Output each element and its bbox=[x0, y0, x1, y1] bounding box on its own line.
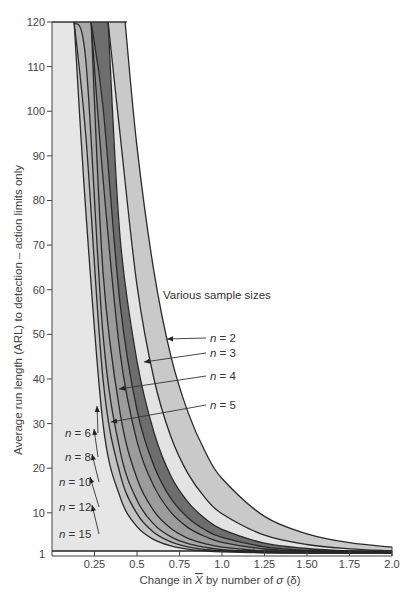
x-axis-label-delta: (δ) bbox=[283, 574, 300, 586]
y-tick-label: 120 bbox=[27, 16, 45, 28]
x-tick-label: 1.50 bbox=[296, 558, 317, 570]
x-axis-label-prefix: Change in bbox=[139, 574, 195, 586]
x-tick-label: 1.25 bbox=[254, 558, 275, 570]
x-tick-label: 0.75 bbox=[169, 558, 190, 570]
series-label: n = 3 bbox=[210, 347, 236, 359]
x-axis-label: Change in X by number of σ (δ) bbox=[139, 574, 300, 586]
x-tick-label: 1.0 bbox=[214, 558, 229, 570]
y-tick-label: 30 bbox=[33, 418, 45, 430]
x-tick-label: 1.75 bbox=[339, 558, 360, 570]
series-label: n = 4 bbox=[210, 370, 237, 382]
y-tick-label: 60 bbox=[33, 284, 45, 296]
x-tick-label: 0.25 bbox=[84, 558, 105, 570]
y-tick-label: 20 bbox=[33, 462, 45, 474]
y-tick-label: 110 bbox=[27, 61, 45, 73]
series-label: n = 10 bbox=[59, 476, 91, 488]
arl-chart: 1102030405060708090100110120 0.250.50.75… bbox=[0, 0, 413, 601]
series-label: n = 5 bbox=[210, 399, 236, 411]
annotation-various-sample-sizes: Various sample sizes bbox=[163, 289, 271, 301]
series-label: n = 15 bbox=[59, 528, 91, 540]
x-tick-label: 0.5 bbox=[129, 558, 144, 570]
arl-bands bbox=[52, 22, 392, 553]
y-tick-label: 80 bbox=[33, 194, 45, 206]
y-tick-label: 70 bbox=[33, 239, 45, 251]
y-axis-label: Average run length (ARL) to detection – … bbox=[12, 165, 24, 455]
x-axis-ticks: 0.250.50.751.01.251.501.752.0 bbox=[84, 551, 400, 570]
series-label: n = 12 bbox=[59, 501, 91, 513]
y-axis-ticks: 1102030405060708090100110120 bbox=[27, 16, 52, 560]
y-tick-label: 10 bbox=[33, 507, 45, 519]
y-tick-label: 90 bbox=[33, 150, 45, 162]
x-axis-label-middle: by number of bbox=[203, 574, 277, 586]
y-tick-label: 100 bbox=[27, 105, 45, 117]
series-label: n = 8 bbox=[65, 451, 91, 463]
y-tick-label: 50 bbox=[33, 328, 45, 340]
y-tick-label: 40 bbox=[33, 373, 45, 385]
series-label: n = 2 bbox=[210, 332, 236, 344]
series-label: n = 6 bbox=[65, 427, 91, 439]
y-tick-label: 1 bbox=[39, 548, 45, 560]
x-tick-label: 2.0 bbox=[384, 558, 399, 570]
